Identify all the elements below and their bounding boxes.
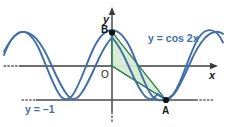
y-axis-arrowhead [109,7,116,15]
point-b-dot [109,29,115,35]
curve-equation-label: y = cos 2x [148,33,199,44]
cosine-graph-figure: y x B O A y = cos 2x y = –1 [0,0,227,127]
origin-label: O [101,70,109,80]
x-axis-label: x [209,70,215,81]
point-a-label: A [162,106,169,116]
point-a-dot [163,97,169,103]
asymptote-equation-label: y = –1 [25,104,55,115]
point-b-label: B [101,25,108,35]
